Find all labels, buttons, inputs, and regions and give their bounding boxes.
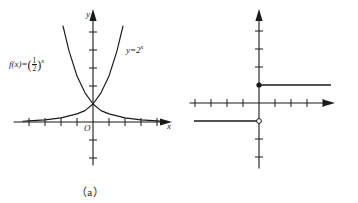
origin-label-a: O (84, 124, 91, 133)
figure-root: f(x)=(12)x y=2x O x y （a） (0, 0, 358, 203)
label-decay-arg: (x)= (12, 59, 28, 69)
label-decay-function-a: f(x)=(12)x (9, 57, 44, 74)
panel-a-exponential-graphs: f(x)=(12)x y=2x O x y （a） (0, 0, 180, 203)
label-growth-function-a: y=2x (126, 44, 143, 55)
panel-b-sign-function-graph: y=1 y=-1 O x y （b） (180, 0, 358, 203)
curve-decay-half-to-the-x (63, 26, 163, 121)
x-axis-arrow-b (323, 99, 335, 106)
label-decay-exponent: x (41, 57, 44, 64)
label-growth-exponent: x (141, 43, 144, 50)
x-axis-label-a: x (167, 122, 171, 131)
open-endpoint-y-equals-minus-1 (257, 119, 262, 124)
y-axis-arrow-b (255, 9, 262, 21)
caption-a: （a） (0, 183, 180, 199)
label-growth-base: y=2 (126, 45, 141, 55)
fraction-denominator: 2 (32, 65, 38, 73)
y-axis-arrow-a (89, 9, 96, 21)
closed-endpoint-y-equals-1 (256, 82, 261, 87)
panel-a-svg (0, 0, 180, 203)
fraction-one-half: 12 (32, 57, 38, 74)
panel-b-svg (180, 0, 358, 203)
y-axis-label-a: y (86, 10, 90, 19)
